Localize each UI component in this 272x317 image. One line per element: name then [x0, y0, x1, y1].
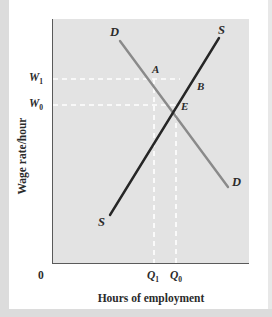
demand-curve-label-top: D — [110, 26, 119, 39]
y-tick-w0-letter: W — [29, 97, 39, 109]
supply-curve-label-bottom: S — [98, 216, 105, 229]
point-e-label: E — [181, 101, 188, 112]
demand-curve — [120, 41, 228, 187]
demand-curve-label-bottom: D — [232, 176, 241, 189]
point-b-label: B — [197, 81, 204, 92]
figure-container: D D S S A B E W1 W0 Q1 Q0 0 Hours of emp… — [0, 0, 272, 317]
y-tick-w0-sub: 0 — [39, 103, 43, 112]
y-tick-w1-sub: 1 — [39, 77, 43, 86]
origin-label: 0 — [38, 270, 44, 282]
supply-curve-label-top: S — [218, 24, 225, 37]
y-tick-w1-letter: W — [29, 71, 39, 83]
supply-curve — [110, 38, 219, 215]
x-axis-title: Hours of employment — [53, 292, 249, 304]
x-tick-q1-sub: 1 — [155, 275, 159, 284]
x-tick-q0-sub: 0 — [178, 275, 182, 284]
y-tick-w1: W1 — [29, 72, 43, 86]
y-tick-w0: W0 — [29, 98, 43, 112]
x-tick-q1: Q1 — [147, 270, 159, 284]
point-a-label: A — [152, 64, 159, 75]
x-tick-q0: Q0 — [170, 270, 182, 284]
y-axis-title: Wage rate/hour — [16, 86, 28, 226]
